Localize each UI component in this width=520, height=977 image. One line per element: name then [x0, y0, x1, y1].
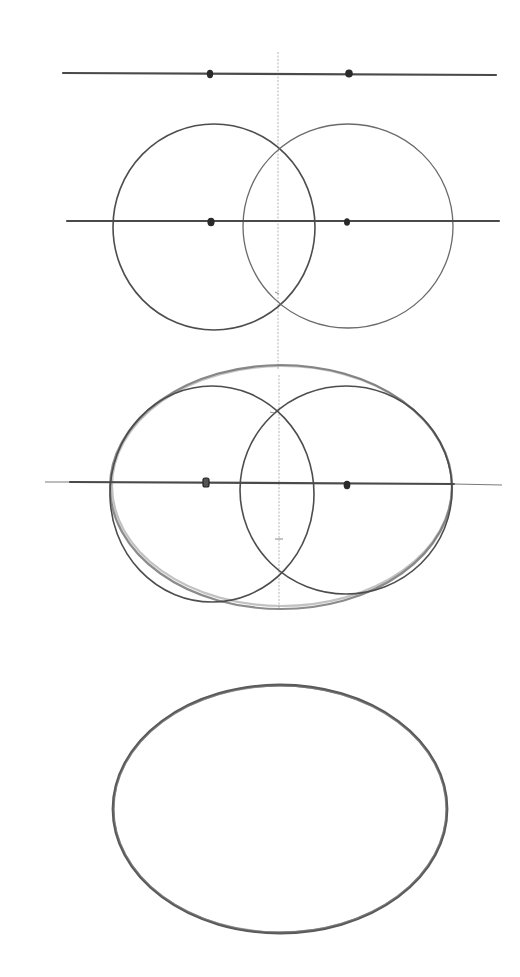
oval-construction-sketch [0, 0, 520, 977]
circle-right [243, 124, 453, 328]
focus-point-left [203, 478, 209, 487]
step-2 [67, 124, 499, 330]
step-4 [113, 685, 447, 933]
step-3 [45, 365, 502, 609]
intersection-mark [270, 412, 274, 413]
focus-point-right [345, 70, 353, 78]
focus-point-right [344, 481, 351, 489]
focus-point-left [207, 218, 214, 226]
horizontal-axis [70, 482, 454, 484]
final-oval-overstroke [114, 686, 446, 932]
intersection-mark [275, 292, 279, 294]
circle-left [113, 124, 315, 330]
step-1 [63, 70, 496, 79]
horizontal-axis [63, 73, 496, 75]
horizontal-axis-faint-right [454, 484, 502, 485]
focus-point-right [344, 218, 350, 226]
focus-point-left [207, 70, 213, 78]
